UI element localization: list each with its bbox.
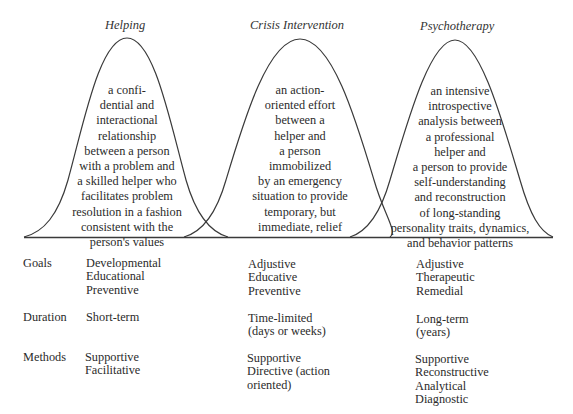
psychotherapy-title: Psychotherapy [420,19,494,34]
row-label-goals: Goals [23,257,52,270]
crisis-intervention-title: Crisis Intervention [250,18,344,33]
goals-crisis: Adjustive Educative Preventive [248,258,301,298]
methods-psychotherapy: Supportive Reconstructive Analytical Dia… [415,353,489,407]
row-label-duration: Duration [23,311,67,324]
methods-crisis: Supportive Directive (action oriented) [247,352,330,392]
row-label-methods: Methods [23,351,66,364]
psychotherapy-description: an intensive introspective analysis betw… [383,84,537,251]
helping-description: a confi- dential and interactional relat… [57,83,197,250]
helping-title: Helping [105,18,145,33]
methods-helping: Supportive Facilitative [85,351,140,378]
duration-helping: Short-term [86,311,139,324]
crisis-intervention-description: an action- oriented effort between a hel… [240,83,360,235]
goals-psychotherapy: Adjustive Therapeutic Remedial [416,258,475,298]
duration-psychotherapy: Long-term (years) [416,313,469,340]
duration-crisis: Time-limited (days or weeks) [248,312,326,339]
goals-helping: Developmental Educational Preventive [86,257,161,297]
